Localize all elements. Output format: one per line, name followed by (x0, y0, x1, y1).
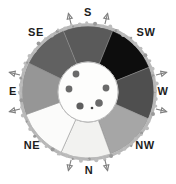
ring-rim-speckle (22, 68, 26, 72)
arrow-w-lower (156, 108, 167, 113)
ring-rim-speckle (87, 159, 89, 161)
ring-rim-speckle (108, 24, 112, 28)
compass-diagram-svg: SSWWNWNNEESE (0, 0, 176, 184)
ring-rim-speckle (93, 22, 97, 26)
arrow-w-upper (156, 71, 167, 76)
ring-rim-speckle (21, 113, 25, 117)
ring-rim-speckle (26, 120, 28, 122)
ring-rim-speckle (26, 62, 28, 64)
center-dot-2 (66, 86, 73, 93)
center-dot-1 (73, 71, 80, 78)
ring-rim-speckle (63, 26, 67, 30)
label-se: SE (28, 26, 44, 38)
arrow-head (67, 13, 72, 19)
center-dot-5 (103, 85, 110, 92)
arrow-head (161, 108, 167, 113)
label-s: S (84, 6, 92, 18)
ring-rim-speckle (19, 83, 23, 87)
arrow-n-left (104, 160, 109, 171)
ring-rim-speckle (57, 29, 59, 31)
ring-rim-speckle (44, 37, 46, 39)
ring-rim-speckle (102, 157, 104, 159)
ring-rim-speckle (37, 42, 41, 46)
ring-rim-speckle (28, 127, 32, 131)
ring-rim-speckle (72, 26, 74, 28)
compass-rose-figure: SSWWNWNNEESE (0, 0, 176, 184)
ring-rim-speckle (78, 22, 82, 26)
arrow-head (9, 108, 15, 113)
ring-rim-speckle (116, 151, 118, 153)
ring-rim-speckle (22, 76, 24, 78)
label-n: N (85, 164, 94, 176)
ring-rim-speckle (139, 49, 141, 51)
arrow-head (161, 71, 167, 76)
ring-rim-speckle (94, 158, 98, 162)
arrow-s-right (104, 13, 109, 24)
ring-rim-speckle (51, 148, 55, 152)
ring-rim-speckle (122, 147, 126, 151)
ring-rim-speckle (145, 126, 149, 130)
ring-rim-speckle (151, 67, 155, 71)
center-dot-3 (76, 102, 83, 109)
arrow-head (67, 165, 72, 171)
label-nw: NW (135, 139, 155, 151)
ring-rim-speckle (143, 53, 147, 57)
arrow-head (9, 71, 15, 76)
center-dot-4 (95, 99, 103, 107)
ring-rim-speckle (57, 153, 59, 155)
ring-rim-speckle (20, 106, 22, 108)
arrow-n-right (67, 160, 72, 171)
center-disk (58, 62, 118, 122)
ring-rim-speckle (130, 37, 132, 39)
ring-rim-speckle (130, 145, 132, 147)
ring-rim-speckle (154, 97, 158, 101)
ring-rim-speckle (45, 143, 47, 145)
ring-rim-speckle (102, 25, 104, 27)
ring-rim-speckle (34, 133, 36, 135)
ring-rim-speckle (153, 76, 155, 78)
ring-rim-speckle (87, 23, 89, 25)
ring-rim-speckle (148, 62, 150, 64)
label-w: W (158, 85, 169, 97)
label-e: E (9, 85, 17, 97)
ring-rim-speckle (121, 33, 125, 37)
label-sw: SW (137, 26, 156, 38)
ring-rim-speckle (72, 158, 74, 160)
arrow-e-lower (9, 108, 20, 113)
ring-rim-speckle (148, 120, 150, 122)
arrow-e-upper (9, 71, 20, 76)
ring-rim-speckle (18, 91, 20, 93)
ring-rim-speckle (109, 154, 113, 158)
arrow-head (104, 13, 109, 19)
center-dot-6 (91, 107, 94, 110)
ring-rim-speckle (28, 54, 32, 58)
ring-rim-speckle (50, 34, 54, 38)
ring-rim-speckle (133, 42, 137, 46)
ring-rim-speckle (151, 112, 155, 116)
ring-rim-speckle (153, 106, 155, 108)
label-ne: NE (24, 139, 40, 151)
ring-rim-speckle (64, 153, 68, 157)
ring-rim-speckle (20, 98, 24, 102)
ring-rim-speckle (79, 159, 83, 163)
ring-rim-speckle (34, 48, 36, 50)
ring-rim-speckle (141, 134, 143, 136)
arrow-s-left (67, 13, 72, 24)
center-disk-group (58, 62, 118, 122)
arrow-head (104, 165, 109, 171)
ring-rim-speckle (117, 29, 119, 31)
